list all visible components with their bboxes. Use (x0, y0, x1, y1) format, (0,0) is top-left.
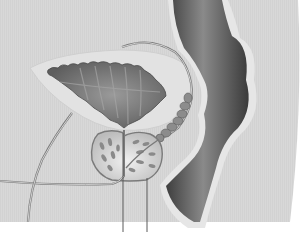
anatomy-figure (0, 0, 305, 232)
anatomy-svg (0, 0, 305, 232)
